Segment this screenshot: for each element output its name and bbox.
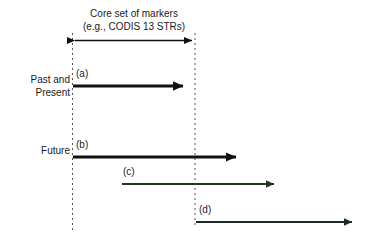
arrow-label-a: (a)	[76, 68, 88, 80]
diagram-canvas	[0, 0, 373, 246]
core-set-title-line-2: (e.g., CODIS 13 STRs)	[44, 21, 224, 33]
arrow-label-b: (b)	[76, 139, 88, 151]
arrow-label-c: (c)	[123, 166, 135, 178]
row-label-past-present-line-1: Past and	[8, 74, 70, 86]
core-set-title-line-1: Core set of markers	[44, 8, 224, 20]
row-label-future: Future	[8, 145, 70, 157]
arrow-label-d: (d)	[199, 204, 211, 216]
timeline-marker-diagram: Core set of markers (e.g., CODIS 13 STRs…	[0, 0, 373, 246]
row-label-past-present-line-2: Present	[8, 87, 70, 99]
